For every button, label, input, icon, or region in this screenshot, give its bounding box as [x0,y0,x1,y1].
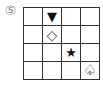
puzzle-grid: ▼ ◇ ★ ♤ [23,7,100,80]
grid-cell [81,26,100,44]
diamond-icon: ◇ [43,26,62,44]
grid-cell [24,26,43,44]
grid-cell [24,62,43,80]
spade-icon: ♤ [81,62,100,80]
problem-number-label: ⑤ [3,3,18,18]
grid-cell [24,8,43,26]
grid-cell [81,8,100,26]
grid-cell [62,62,81,80]
star-icon: ★ [62,44,81,62]
grid-cell [43,62,62,80]
grid-cell [81,44,100,62]
grid-cell [62,26,81,44]
grid-cell [62,8,81,26]
grid-cell [43,44,62,62]
grid-cell [24,44,43,62]
down-triangle-icon: ▼ [43,8,62,26]
